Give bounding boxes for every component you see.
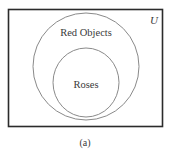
figure-caption: (a) xyxy=(79,137,90,149)
red-objects-label: Red Objects xyxy=(60,27,112,38)
roses-label: Roses xyxy=(73,79,98,90)
venn-diagram: U Red Objects Roses (a) xyxy=(0,0,171,155)
universe-label: U xyxy=(150,14,159,26)
